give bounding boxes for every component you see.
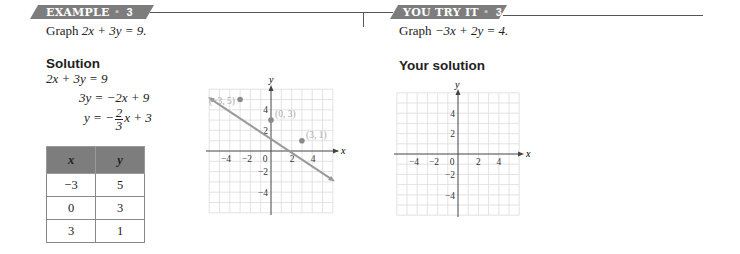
- problem-prefix: Graph: [46, 23, 79, 38]
- y-tick: 2: [450, 129, 455, 139]
- x-tick: −4: [409, 157, 419, 167]
- point-label: (3, 1): [306, 130, 327, 141]
- y-tick: −4: [445, 191, 455, 201]
- problem-prefix: Graph: [399, 23, 432, 38]
- x-axis-label: x: [340, 145, 346, 156]
- x-tick: 2: [476, 157, 481, 167]
- y-axis-label: y: [454, 79, 460, 90]
- solution-step-1: 2x + 3y = 9: [46, 71, 108, 87]
- table-row: −3 5: [47, 174, 145, 197]
- x-tick: 0: [263, 154, 268, 164]
- you-try-graph: x y −4 −2 0 2 4 4 2 −2 −4: [385, 78, 535, 223]
- table-row: 3 1: [47, 220, 145, 243]
- you-try-left-rule: [363, 12, 393, 13]
- you-try-tab-number: 3: [496, 6, 502, 18]
- point-3-1: [299, 138, 305, 144]
- x-tick: 4: [496, 157, 501, 167]
- x-tick: 4: [311, 154, 316, 164]
- x-tick: −4: [221, 154, 231, 164]
- x-tick: −2: [242, 154, 252, 164]
- problem-equation: 2x + 3y = 9.: [82, 23, 147, 38]
- you-try-problem: Graph −3x + 2y = 4.: [399, 23, 508, 39]
- cell: 3: [47, 220, 96, 243]
- y-axis-arrow-icon: [269, 85, 274, 91]
- you-try-tab: YOU TRY IT•3: [390, 5, 507, 19]
- y-tick: −4: [258, 188, 268, 198]
- step3-lhs: y = −: [84, 110, 114, 125]
- cell: 3: [96, 197, 145, 220]
- solution-step-3: y = −23x + 3: [84, 107, 152, 132]
- x-axis-label: x: [525, 148, 531, 159]
- x-tick-labels: −4 −2 0 2 4: [409, 157, 501, 167]
- you-try-tab-label: YOU TRY IT: [403, 6, 479, 19]
- example-tab-label: EXAMPLE: [46, 6, 110, 19]
- point-label: (−3, 5): [209, 96, 235, 107]
- cell: −3: [47, 174, 96, 197]
- example-problem: Graph 2x + 3y = 9.: [46, 23, 147, 39]
- y-tick: 4: [450, 109, 455, 119]
- x-tick: −2: [429, 157, 439, 167]
- your-solution-heading: Your solution: [399, 58, 485, 73]
- x-axis-arrow-icon: [333, 149, 339, 154]
- y-axis-label: y: [268, 74, 274, 85]
- point-0-3: [268, 117, 274, 123]
- xy-table: x y −3 5 0 3 3 1: [46, 146, 145, 243]
- example-graph: x y −4 −2 0 2 4 4 2 −2 −4 (−3, 5) (0, 3)…: [195, 70, 355, 220]
- column-divider-tick: [363, 12, 364, 27]
- y-tick: −2: [445, 170, 455, 180]
- x-tick: 0: [450, 157, 455, 167]
- x-axis-arrow-icon: [518, 152, 524, 157]
- point-label: (0, 3): [275, 109, 296, 120]
- solution-step-2: 3y = −2x + 9: [79, 90, 149, 106]
- fraction-denominator: 3: [116, 120, 123, 132]
- fraction: 23: [115, 107, 124, 132]
- table-header-y: y: [96, 147, 145, 174]
- x-tick: 2: [290, 154, 295, 164]
- step3-rhs: x + 3: [124, 110, 152, 125]
- cell: 1: [96, 220, 145, 243]
- cell: 5: [96, 174, 145, 197]
- problem-equation: −3x + 2y = 4.: [435, 23, 509, 38]
- y-tick: −2: [258, 167, 268, 177]
- point-neg3-5: [237, 97, 243, 103]
- example-tab-number: 3: [127, 6, 133, 18]
- solution-heading: Solution: [46, 56, 100, 71]
- cell: 0: [47, 197, 96, 220]
- example-header-rule: [150, 12, 365, 13]
- y-tick: 4: [263, 105, 268, 115]
- example-tab: EXAMPLE•3: [30, 5, 154, 19]
- table-row: 0 3: [47, 197, 145, 220]
- you-try-header-rule: [503, 15, 703, 16]
- table-header-x: x: [47, 147, 96, 174]
